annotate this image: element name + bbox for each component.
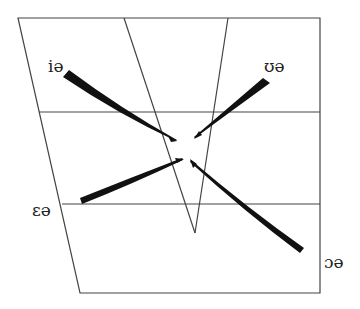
arrow-ee xyxy=(80,158,184,204)
vowel-chart-diagram: iə ʊə ɛə ɔə xyxy=(0,0,360,309)
label-oe: ɔə xyxy=(324,254,344,271)
arrow-ie xyxy=(63,70,177,142)
label-ee: ɛə xyxy=(32,202,51,219)
central-v-left xyxy=(124,18,195,233)
label-ie: iə xyxy=(48,58,64,75)
label-ue: ʊə xyxy=(264,58,285,75)
arrow-ue xyxy=(194,78,270,139)
arrow-oe xyxy=(190,159,304,253)
vowel-trapezium xyxy=(0,0,360,309)
